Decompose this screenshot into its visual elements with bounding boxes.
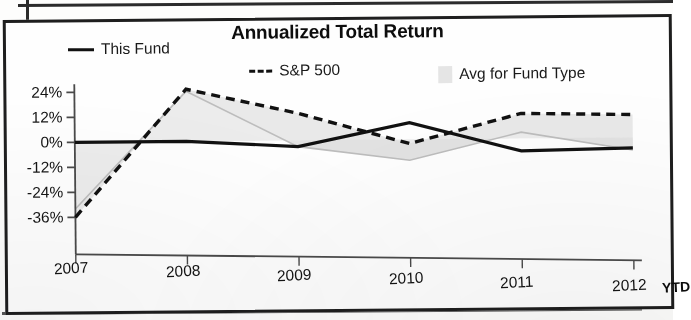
chart-frame: Annualized Total Return This Fund S&P 50… bbox=[3, 14, 675, 315]
x-axis-tick-2010: 2010 bbox=[388, 269, 423, 289]
chart-plot-svg bbox=[6, 17, 671, 312]
x-axis-tick-2008: 2008 bbox=[165, 262, 200, 282]
plot-area: 24%12%0%-12%-24%-36% 2007200820092010201… bbox=[6, 17, 671, 312]
x-axis-tick-2011: 2011 bbox=[500, 272, 534, 292]
page-corner-rule bbox=[0, 0, 29, 22]
x-axis-ytd-label: YTD bbox=[662, 278, 691, 295]
x-axis-tick-2007: 2007 bbox=[53, 259, 88, 279]
x-axis-tick-2009: 2009 bbox=[277, 265, 312, 285]
x-axis-tick-2012: 2012 bbox=[612, 276, 647, 296]
chart-inner: Annualized Total Return This Fund S&P 50… bbox=[6, 17, 671, 312]
page-top-rule bbox=[18, 0, 673, 7]
